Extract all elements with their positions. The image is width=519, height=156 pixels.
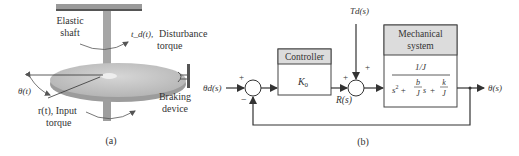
controller-title: Controller [285, 52, 325, 62]
k-over-j-den: J [442, 89, 446, 98]
caption-b: (b) [357, 136, 369, 148]
input-torque-label-2: torque [46, 117, 72, 128]
b-over-j-num: b [416, 78, 420, 87]
braking-label-2: device [162, 103, 189, 114]
disturbance-label-2: torque [157, 40, 183, 51]
shaft-hub [101, 73, 117, 79]
caption-a: (a) [105, 135, 116, 147]
output-label: θ(s) [488, 83, 502, 93]
b-over-j-den: J [416, 89, 420, 98]
disturbance-symbol: t_d(t), [131, 29, 153, 39]
k-over-j-num: k [442, 78, 446, 87]
ceiling-edge [56, 9, 142, 11]
summing-junction-2 [348, 80, 364, 96]
diagram-canvas: Elastic shaft t_d(t), Disturbance torque… [0, 0, 519, 156]
physical-system-illustration: Elastic shaft t_d(t), Disturbance torque… [18, 4, 208, 147]
plus-sign: + [430, 85, 435, 95]
disturbance-label-1: Disturbance [159, 28, 208, 39]
input-torque-label-1: r(t), Input [38, 105, 77, 117]
sum1-minus-sign: − [241, 94, 247, 105]
theta-arc-icon [30, 77, 50, 95]
theta-label: θ(t) [18, 86, 31, 96]
elastic-shaft-label-2: shaft [60, 27, 80, 38]
input-label: θd(s) [203, 83, 221, 93]
tf-numerator: 1/J [415, 62, 427, 72]
summing-junction-1 [245, 80, 261, 96]
braking-label-1: Braking [159, 91, 191, 102]
sum2-plus-left: + [343, 72, 348, 82]
lower-shaft [103, 99, 111, 121]
block-diagram: θd(s) + − Controller K0 + R(s) Td(s) + M… [203, 6, 502, 148]
plant-title-line2: system [407, 41, 434, 51]
sum1-plus-sign: + [239, 72, 244, 82]
tf-denominator: s2 + [392, 84, 406, 95]
disturbance-input-label: Td(s) [350, 6, 369, 16]
braking-device [187, 64, 190, 88]
sum2-plus-top: + [365, 62, 370, 72]
plant-title-line1: Mechanical [398, 29, 443, 39]
controller-output-label: R(s) [335, 95, 352, 106]
s-term: s [423, 86, 426, 95]
elastic-shaft-label-1: Elastic [56, 15, 84, 26]
